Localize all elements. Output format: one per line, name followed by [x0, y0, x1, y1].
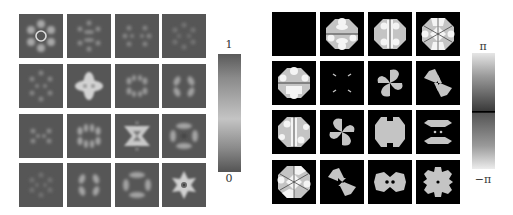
intensity-map-1-3: [115, 14, 159, 58]
phase-map-2-2: [320, 61, 364, 105]
phase-map-4-1: [272, 160, 316, 204]
intensity-map-3-1: [19, 114, 63, 158]
phase-map-4-3: [368, 160, 412, 204]
phase-map-3-2: [320, 110, 364, 154]
phase-map-1-2: [320, 12, 364, 56]
intensity-map-4-4: [162, 163, 206, 207]
intensity-map-2-1: [19, 64, 63, 108]
phase-map-1-3: [368, 12, 412, 56]
phase-map-1-4: [416, 12, 460, 56]
phase-map-3-4: [416, 110, 460, 154]
colorbar-max-label: π: [468, 40, 498, 53]
intensity-map-2-2: [67, 64, 111, 108]
intensity-map-3-3: [115, 114, 159, 158]
colorbar-max-label: 1: [214, 38, 244, 51]
intensity-map-1-2: [67, 14, 111, 58]
intensity-map-1-1: [19, 14, 63, 58]
intensity-map-3-2: [67, 114, 111, 158]
phase-map-4-4: [416, 160, 460, 204]
colorbar-min-label: −π: [468, 173, 498, 186]
intensity-map-3-4: [162, 114, 206, 158]
colorbar-min-label: 0: [214, 172, 244, 185]
phase-map-2-4: [416, 61, 460, 105]
intensity-map-1-4: [162, 14, 206, 58]
intensity-map-4-2: [67, 163, 111, 207]
phase-map-1-1: [272, 12, 316, 56]
phase-map-3-1: [272, 110, 316, 154]
intensity-map-4-1: [19, 163, 63, 207]
phase-map-3-3: [368, 110, 412, 154]
phase-map-2-1: [272, 61, 316, 105]
intensity-map-2-4: [162, 64, 206, 108]
intensity-map-2-3: [115, 64, 159, 108]
phase-map-4-2: [320, 160, 364, 204]
intensity-map-4-3: [115, 163, 159, 207]
phase-map-2-3: [368, 61, 412, 105]
